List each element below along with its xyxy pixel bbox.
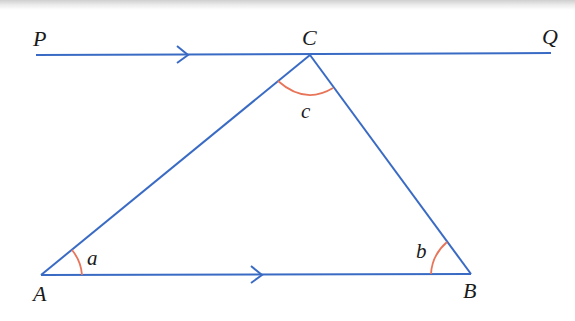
diagram-canvas: P C Q A B a b c: [0, 0, 575, 321]
angle-arc-b: [431, 242, 447, 274]
line-pq: [36, 53, 551, 55]
angle-arc-a: [72, 250, 82, 275]
label-point-a: A: [31, 281, 47, 306]
angle-arc-c: [278, 81, 333, 95]
label-angle-a: a: [87, 246, 98, 270]
triangle-diagram: P C Q A B a b c: [0, 0, 575, 321]
side-cb: [310, 55, 471, 274]
label-point-b: B: [463, 278, 476, 303]
label-point-c: C: [302, 25, 317, 50]
label-point-q: Q: [542, 24, 558, 49]
side-ac: [41, 55, 310, 275]
label-point-p: P: [32, 26, 46, 51]
side-ab: [41, 274, 471, 275]
label-angle-c: c: [301, 99, 311, 123]
label-angle-b: b: [416, 239, 427, 263]
